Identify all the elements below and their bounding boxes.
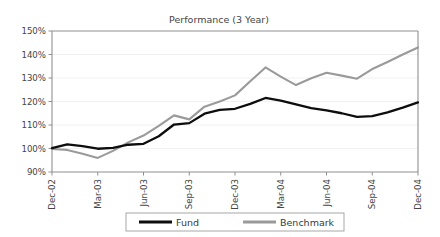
chart-legend: Fund Benchmark <box>126 213 344 231</box>
x-tick-label: Dec-02 <box>47 179 57 210</box>
chart-title: Performance (3 Year) <box>169 14 269 25</box>
legend-label-fund: Fund <box>176 217 199 228</box>
y-tick-label: 120% <box>21 97 46 107</box>
legend-label-benchmark: Benchmark <box>280 217 335 228</box>
x-tick-label: Mar-04 <box>276 179 286 209</box>
y-tick-label: 100% <box>21 144 46 154</box>
chart-canvas: Performance (3 Year) 90%100%110%120%130%… <box>0 0 440 237</box>
y-tick-label: 110% <box>21 120 46 130</box>
performance-chart: Performance (3 Year) 90%100%110%120%130%… <box>0 0 440 237</box>
y-tick-label: 130% <box>21 73 46 83</box>
y-tick-label: 140% <box>21 50 46 60</box>
y-tick-label: 90% <box>27 167 46 177</box>
x-tick-label: Sep-03 <box>184 179 194 209</box>
x-tick-label: Sep-04 <box>367 179 377 209</box>
y-tick-label: 150% <box>21 26 46 36</box>
x-tick-label: Mar-03 <box>93 179 103 209</box>
x-tick-label: Dec-03 <box>230 179 240 210</box>
x-tick-label: Jun-04 <box>322 179 332 207</box>
x-tick-label: Dec-04 <box>413 179 423 210</box>
x-tick-label: Jun-03 <box>139 179 149 207</box>
